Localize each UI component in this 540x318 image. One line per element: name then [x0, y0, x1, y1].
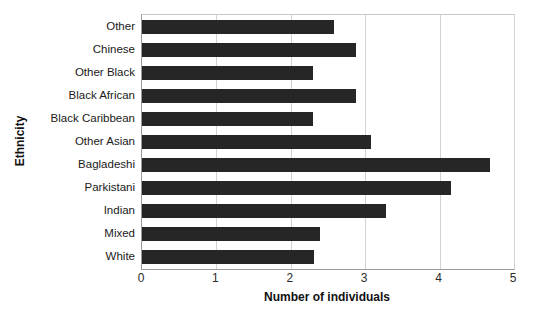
plot-area — [141, 14, 515, 270]
bar — [142, 20, 334, 34]
x-axis-tick-labels: 012345 — [0, 271, 540, 287]
y-axis-tick-label: White — [0, 249, 135, 263]
x-axis-tick-label: 5 — [493, 271, 533, 286]
x-axis-tick-label: 4 — [419, 271, 459, 286]
bar — [142, 181, 451, 195]
y-axis-tick-label: Mixed — [0, 226, 135, 240]
y-axis-title: Ethnicity — [13, 81, 27, 201]
bar — [142, 89, 356, 103]
bar — [142, 135, 371, 149]
bar — [142, 227, 320, 241]
x-axis-tick-label: 3 — [344, 271, 384, 286]
bar — [142, 43, 356, 57]
y-axis-tick-label: Indian — [0, 203, 135, 217]
bar — [142, 66, 313, 80]
bar — [142, 250, 314, 264]
y-axis-tick-label: Other Black — [0, 65, 135, 79]
y-axis-tick-label: Other — [0, 19, 135, 33]
gridline — [514, 15, 515, 269]
x-axis-tick-label: 2 — [270, 271, 310, 286]
bars-layer — [142, 15, 514, 269]
y-axis-tick-label: Chinese — [0, 42, 135, 56]
x-axis-tick-label: 1 — [195, 271, 235, 286]
bar — [142, 112, 313, 126]
bar — [142, 204, 386, 218]
bar-chart: WhiteMixedIndianParkistaniBagladeshiOthe… — [0, 0, 540, 318]
bar — [142, 158, 490, 172]
x-axis-title: Number of individuals — [141, 290, 513, 304]
x-axis-tick-label: 0 — [121, 271, 161, 286]
